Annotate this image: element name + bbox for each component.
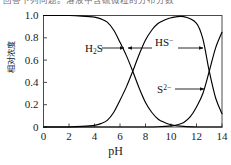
curve-S2- [44, 32, 223, 127]
series-label-H2S: H2S [85, 42, 103, 55]
data-curves [44, 15, 223, 127]
plot-area [0, 0, 231, 165]
curve-HS- [44, 16, 223, 127]
series-label-S2-: S2− [157, 83, 171, 95]
chart-figure: 回答下列问题。溶液中含硫微粒的分布分数 相对浓度 pH 00.20.40.60.… [0, 0, 231, 165]
annotation-arrows [102, 48, 204, 89]
series-label-HS-: HS− [155, 36, 173, 48]
